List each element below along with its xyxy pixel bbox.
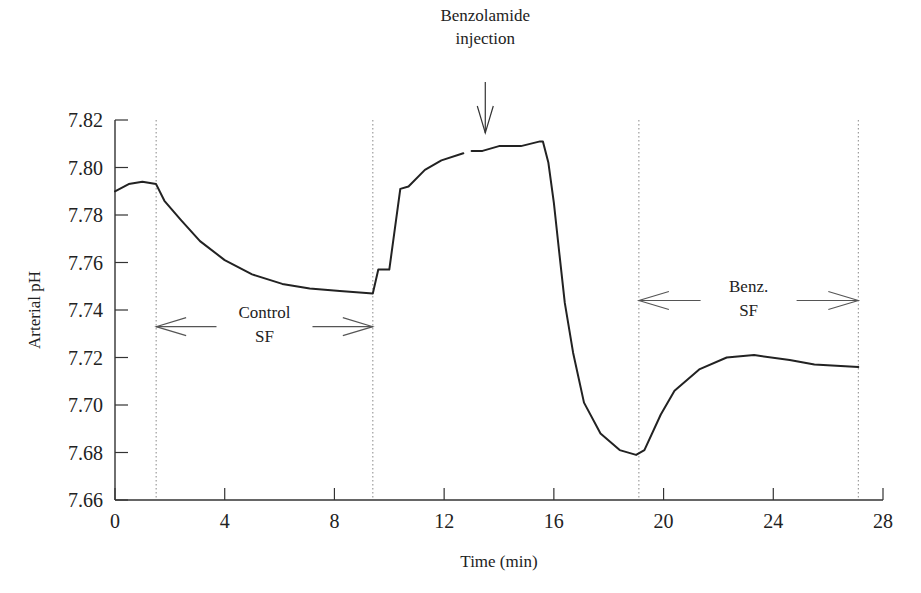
x-tick-label: 20 — [654, 510, 674, 532]
y-axis-label: Arterial pH — [25, 271, 44, 349]
x-tick-label: 8 — [329, 510, 339, 532]
data-series — [115, 141, 858, 455]
y-tick-label: 7.82 — [68, 109, 103, 131]
ph-line — [115, 153, 463, 293]
x-axis-label: Time (min) — [460, 552, 537, 571]
x-tick-label: 24 — [763, 510, 783, 532]
x-tick-label: 28 — [873, 510, 893, 532]
annotation-label: injection — [456, 29, 516, 48]
x-tick-label: 4 — [220, 510, 230, 532]
y-tick-label: 7.70 — [68, 394, 103, 416]
annotations: BenzolamideinjectionControlSFBenz.SF — [156, 6, 858, 346]
x-tick-label: 12 — [434, 510, 454, 532]
ph-line — [472, 141, 859, 455]
y-tick-label: 7.74 — [68, 299, 103, 321]
x-tick-label: 16 — [544, 510, 564, 532]
y-tick-label: 7.68 — [68, 442, 103, 464]
annotation-label: Control — [239, 303, 291, 322]
y-tick-label: 7.72 — [68, 347, 103, 369]
axes: 7.667.687.707.727.747.767.787.807.820481… — [68, 109, 893, 532]
y-tick-label: 7.66 — [68, 489, 103, 511]
annotation-label: Benz. — [729, 277, 768, 296]
chart: 7.667.687.707.727.747.767.787.807.820481… — [0, 0, 921, 593]
x-tick-label: 0 — [110, 510, 120, 532]
annotation-label: Benzolamide — [440, 6, 530, 25]
y-tick-label: 7.78 — [68, 204, 103, 226]
y-tick-label: 7.80 — [68, 157, 103, 179]
annotation-label: SF — [255, 327, 274, 346]
y-tick-label: 7.76 — [68, 252, 103, 274]
annotation-label: SF — [739, 301, 758, 320]
